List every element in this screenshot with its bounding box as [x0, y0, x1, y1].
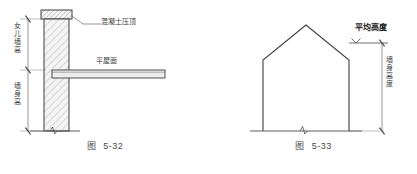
label-flat-roof: 平屋面	[96, 57, 117, 64]
label-wall-height: 墙身高度	[386, 56, 393, 88]
dimension-wall-height	[349, 40, 385, 135]
ground-line	[250, 127, 362, 135]
label-parapet-height: 女儿墙高	[14, 22, 21, 54]
dimension-extension-lines	[20, 19, 46, 131]
figure-5-32-caption: 图5-32	[0, 139, 210, 152]
figure-5-33-caption: 图5-33	[210, 139, 417, 152]
coping-leader-line	[72, 16, 101, 24]
concrete-coping	[41, 10, 72, 19]
label-concrete-coping: 混凝土压顶	[101, 18, 136, 25]
figure-5-32: 混凝土压顶 平屋面 女儿墙高 墙身高 图5-32	[0, 0, 210, 174]
caption-number: 5-33	[312, 141, 332, 151]
flat-roof-slab	[52, 70, 165, 78]
figure-sheet: 混凝土压顶 平屋面 女儿墙高 墙身高 图5-32	[0, 0, 417, 174]
dimension-wall-height	[25, 70, 30, 134]
label-wall-height: 墙身高	[14, 82, 21, 106]
label-average-height: 平均高度	[355, 24, 387, 32]
caption-number: 5-32	[103, 141, 123, 151]
dimension-parapet-height	[25, 16, 30, 74]
caption-word: 图	[87, 141, 97, 151]
building-outline	[263, 25, 349, 131]
caption-word: 图	[295, 141, 305, 151]
figure-5-33: 平均高度 墙身高度 图5-33	[210, 0, 417, 174]
